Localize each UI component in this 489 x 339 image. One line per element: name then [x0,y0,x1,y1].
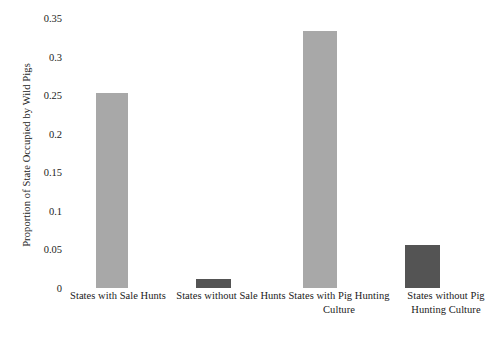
bar-slot [303,18,337,288]
x-axis-tick-label: States without Sale Hunts [176,289,286,303]
bar-slot [196,18,231,288]
x-axis-tick-label: States without Pig Hunting Culture [391,289,489,316]
y-axis-tick-label: 0.1 [18,205,62,216]
y-axis-tick-label: 0.35 [18,13,62,24]
plot-area [66,18,484,288]
y-axis-tick-label: 0.2 [18,128,62,139]
bar-slot [405,18,440,288]
bar-chart: Proportion of State Occupied by Wild Pig… [0,0,489,339]
y-axis-tick-labels: 00.050.10.150.20.250.30.35 [0,0,62,339]
bar[interactable] [96,93,128,288]
y-axis-tick-label: 0.3 [18,51,62,62]
y-axis-tick-label: 0.25 [18,90,62,101]
y-axis-tick-label: 0.05 [18,244,62,255]
x-axis-tick-labels: States with Sale HuntsStates without Sal… [66,289,484,337]
x-axis-tick-label: States with Pig Hunting Culture [281,289,397,316]
bar[interactable] [405,245,440,288]
bar[interactable] [196,279,231,288]
y-axis-tick-label: 0.15 [18,167,62,178]
x-axis-tick-label: States with Sale Hunts [60,289,176,303]
y-axis-tick-label: 0 [18,283,62,294]
bar-slot [96,18,128,288]
bar[interactable] [303,31,337,288]
